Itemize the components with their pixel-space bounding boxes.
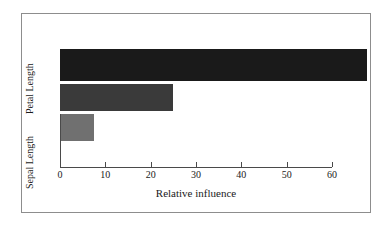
x-axis-tick-label: 30 [191,169,201,181]
bar [60,114,94,141]
x-axis-tick [60,162,61,167]
x-axis-tick-label: 0 [58,169,63,181]
bar [60,49,367,81]
x-axis-tick-label: 50 [282,169,292,181]
x-axis-tick [105,162,106,167]
x-axis-tick [196,162,197,167]
x-axis-tick [151,162,152,167]
x-axis-line [60,167,332,168]
bar [60,84,173,111]
x-axis-title: Relative influence [60,187,332,199]
plot-area: 0102030405060 Relative influence Petal L… [22,14,370,212]
x-axis-tick-label: 40 [236,169,246,181]
y-axis-label-petal-length: Petal Length [24,63,35,114]
x-axis-tick [241,162,242,167]
y-axis-line [60,114,61,167]
x-axis-tick-label: 10 [100,169,110,181]
x-axis-tick-label: 20 [146,169,156,181]
figure-frame: 0102030405060 Relative influence Petal L… [21,13,371,213]
y-axis-label-sepal-length: Sepal Length [24,136,35,189]
x-axis-tick [332,162,333,167]
x-axis-tick [287,162,288,167]
x-axis-tick-label: 60 [327,169,337,181]
